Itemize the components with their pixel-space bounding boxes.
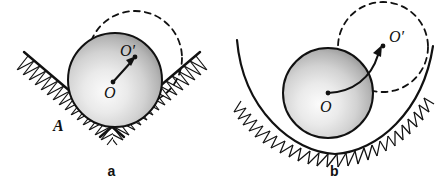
label-contact-point-a: A [52, 117, 64, 134]
caption-a: a [0, 163, 223, 179]
caption-b: b [223, 163, 446, 179]
figure-panel-b: O O′ b [223, 0, 446, 192]
label-center-initial-a: O [104, 84, 116, 101]
figure-root: O O′ A a [0, 0, 446, 192]
label-center-initial-b: O [320, 98, 332, 115]
label-center-final-a: O′ [120, 42, 136, 59]
figure-panel-a: O O′ A a [0, 0, 223, 192]
label-center-final-b: O′ [389, 28, 405, 45]
